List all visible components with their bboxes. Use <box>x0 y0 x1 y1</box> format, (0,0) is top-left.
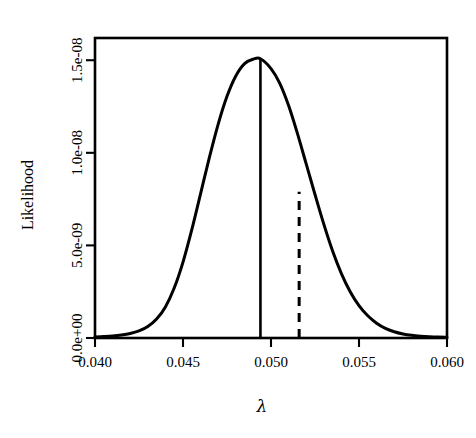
x-tick-label: 0.045 <box>166 354 200 370</box>
y-axis-tick-labels: 0.0e+005.0e-091.0e-081.5e-08 <box>69 38 85 363</box>
x-tick-label: 0.050 <box>254 354 288 370</box>
y-tick-label: 5.0e-09 <box>69 223 85 268</box>
y-axis-ticks <box>86 60 95 338</box>
y-axis-title: Likelihood <box>19 160 36 230</box>
plot-frame-box <box>95 38 447 338</box>
likelihood-plot-figure: 0.0e+005.0e-091.0e-081.5e-08 0.0400.0450… <box>0 0 476 438</box>
y-tick-label: 1.0e-08 <box>69 130 85 175</box>
x-axis-tick-labels: 0.0400.0450.0500.0550.060 <box>78 354 464 370</box>
x-tick-label: 0.040 <box>78 354 112 370</box>
likelihood-curve <box>95 58 447 337</box>
annotation-lines <box>260 59 299 338</box>
x-tick-label: 0.055 <box>342 354 376 370</box>
x-axis-title: λ <box>256 396 268 416</box>
x-tick-label: 0.060 <box>430 354 464 370</box>
x-axis-ticks <box>95 338 447 347</box>
plot-canvas: 0.0e+005.0e-091.0e-081.5e-08 0.0400.0450… <box>0 0 476 438</box>
y-tick-label: 1.5e-08 <box>69 38 85 83</box>
